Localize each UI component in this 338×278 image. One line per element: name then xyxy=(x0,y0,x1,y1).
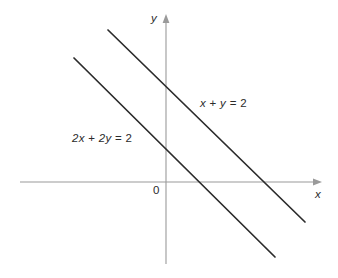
equation-label-line1: x + y = 2 xyxy=(200,98,247,110)
equation-line2-term2: 2y xyxy=(99,132,112,144)
equation-line2-op1: + xyxy=(88,132,95,144)
x-axis-arrowhead xyxy=(313,179,322,186)
origin-label: 0 xyxy=(153,185,159,197)
equation-line2-rhs: 2 xyxy=(126,132,133,144)
line-x-plus-y-equals-2 xyxy=(108,30,305,222)
line-2x-plus-2y-equals-2 xyxy=(74,58,275,257)
y-axis-label: y xyxy=(151,13,157,25)
x-axis-label: x xyxy=(315,189,321,201)
equation-line2-term1: 2x xyxy=(72,132,85,144)
equation-line1-rhs: 2 xyxy=(240,97,247,109)
coordinate-plane-figure: y x 0 x + y = 2 2x + 2y = 2 xyxy=(0,0,338,278)
y-axis-arrowhead xyxy=(163,14,170,23)
equation-line1-term2: y xyxy=(220,97,226,109)
equation-line1-term1: x xyxy=(200,97,206,109)
equation-line1-op1: + xyxy=(210,97,217,109)
equation-line1-equals: = xyxy=(230,97,237,109)
equation-label-line2: 2x + 2y = 2 xyxy=(72,133,132,145)
graph-canvas xyxy=(0,0,338,278)
equation-line2-equals: = xyxy=(115,132,122,144)
